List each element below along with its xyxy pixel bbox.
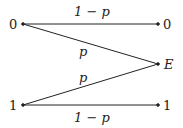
edge-label-0-E: p bbox=[79, 45, 87, 58]
node-in-0 bbox=[22, 23, 25, 26]
output-label-E: E bbox=[164, 58, 174, 71]
node-out-E bbox=[157, 63, 160, 66]
input-label-1: 1 bbox=[9, 99, 17, 112]
output-label-0: 0 bbox=[163, 18, 171, 31]
edge-0-to-E bbox=[23, 24, 158, 64]
node-out-1 bbox=[157, 104, 160, 107]
node-in-1 bbox=[22, 104, 25, 107]
edge-label-1-1: 1 − p bbox=[74, 111, 110, 124]
channel-edges bbox=[0, 0, 183, 128]
edge-1-to-E bbox=[23, 64, 158, 105]
node-out-0 bbox=[157, 23, 160, 26]
input-label-0: 0 bbox=[9, 18, 17, 31]
output-label-1: 1 bbox=[163, 99, 171, 112]
edge-label-0-0: 1 − p bbox=[74, 5, 110, 18]
edge-label-1-E: p bbox=[79, 71, 87, 84]
